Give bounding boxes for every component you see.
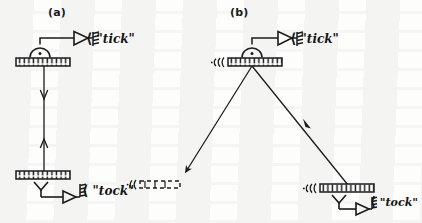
panel-b-tock-message: ⟨ "tock"	[370, 194, 418, 209]
panel-a-tock-text: "tock"	[93, 184, 135, 198]
figure-canvas: (a) (b) ⟨ "tick" ⟨ "tock" ⟨ "tick" ⟨ "to…	[0, 0, 422, 223]
speech-bracket-icon: ⟨	[290, 30, 296, 46]
panel-b-label: (b)	[230, 6, 249, 19]
diagram-vector-layer	[0, 0, 422, 223]
panel-b-detector-lead	[252, 38, 278, 45]
panel-b-group	[187, 32, 377, 216]
panel-b-beam-paths	[187, 66, 348, 185]
panel-a-tick-text: "tick"	[97, 32, 135, 46]
panel-b-top-radiation-arcs-icon	[211, 58, 224, 68]
panel-b-tick-message: ⟨ "tick"	[290, 30, 339, 46]
speech-bracket-icon: ⟨	[86, 30, 92, 46]
panel-a-emitter-y-symbol	[34, 182, 63, 197]
panel-a-detector-semicircle	[30, 48, 50, 57]
panel-b-emitter-y-symbol	[332, 195, 356, 209]
speech-bracket-icon: ⟨	[370, 194, 376, 209]
panel-b-tock-text: "tock"	[380, 196, 418, 209]
panel-a-top-mirror	[16, 58, 70, 66]
panel-b-bottom-radiation-arcs-icon	[303, 184, 316, 194]
panel-b-detector-semicircle	[242, 48, 262, 57]
panel-b-top-mirror	[228, 58, 282, 66]
panel-a-amplifier-triangle-bottom	[63, 191, 80, 203]
panel-a-label: (a)	[48, 6, 66, 19]
panel-a-tock-message: ⟨ "tock"	[82, 182, 134, 198]
panel-a-beam-path	[40, 66, 47, 172]
panel-b-tick-text: "tick"	[301, 32, 339, 46]
speech-bracket-icon: ⟨	[82, 182, 88, 198]
panel-a-tick-message: ⟨ "tick"	[86, 30, 135, 46]
panel-a-ghost-mirror-dashed	[140, 181, 180, 188]
panel-a-bottom-mirror	[16, 171, 70, 179]
panel-a-group	[16, 32, 180, 204]
panel-b-bottom-mirror	[320, 184, 374, 192]
panel-a-detector-lead	[40, 38, 74, 45]
